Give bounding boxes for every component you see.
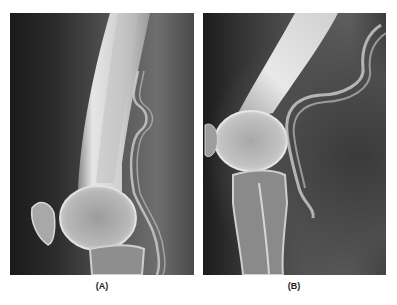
panel-label-b: (B) — [279, 281, 309, 291]
xray-image-b — [203, 13, 386, 275]
xray-image-a — [10, 13, 194, 275]
panel-label-a: (A) — [87, 281, 117, 291]
xray-panel-b — [203, 13, 386, 275]
xray-panel-a — [10, 13, 194, 275]
